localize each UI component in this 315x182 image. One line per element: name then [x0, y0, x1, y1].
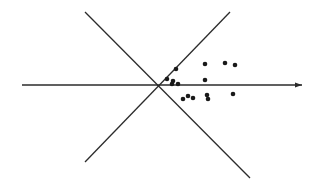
data-point	[165, 77, 170, 82]
horizontal-axis-arrowhead	[295, 82, 302, 87]
data-point	[191, 96, 196, 101]
data-point	[176, 82, 181, 87]
data-point	[181, 97, 186, 102]
data-point	[170, 82, 175, 87]
data-point	[205, 93, 210, 98]
data-point	[206, 97, 211, 102]
data-point	[174, 67, 179, 72]
data-point	[203, 78, 208, 83]
scatter-diagram-figure	[0, 0, 315, 182]
descending-diagonal	[85, 12, 250, 178]
data-point	[203, 62, 208, 67]
diagram-canvas	[0, 0, 315, 182]
lines-group	[22, 12, 302, 178]
data-points-group	[165, 61, 238, 102]
data-point	[223, 61, 228, 66]
data-point	[231, 92, 236, 97]
data-point	[233, 63, 238, 68]
data-point	[186, 94, 191, 99]
